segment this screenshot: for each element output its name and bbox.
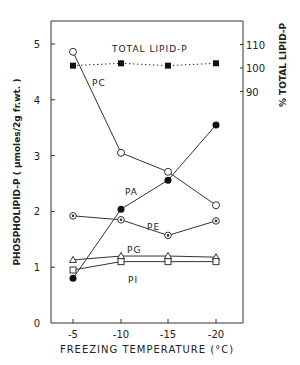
data-point-center: [120, 218, 123, 221]
series-label: PC: [92, 78, 106, 88]
data-point-center: [167, 234, 170, 237]
data-point: [70, 63, 76, 69]
series-label: TOTAL LIPID-P: [111, 44, 188, 54]
x-tick-label: -20: [208, 329, 224, 340]
data-point: [213, 259, 219, 265]
series-label: PA: [125, 187, 138, 197]
data-point-center: [215, 220, 218, 223]
series-line-pe: [73, 216, 216, 236]
series-label: PG: [127, 245, 141, 255]
y-tick-label: 1: [34, 262, 40, 273]
data-point-center: [72, 215, 75, 218]
series-line-pg: [73, 256, 216, 260]
y-tick-label: 3: [34, 151, 40, 162]
y-right-tick-label: 90: [246, 87, 259, 98]
series-line-pa: [73, 125, 216, 278]
data-point: [213, 202, 220, 209]
y-right-axis-label: % TOTAL LIPID-P: [278, 22, 288, 107]
y-tick-label: 0: [34, 318, 40, 329]
data-point: [213, 121, 220, 128]
data-point: [165, 177, 172, 184]
data-point: [165, 63, 171, 69]
data-point: [213, 60, 219, 66]
series-label: PI: [128, 275, 138, 285]
chart: 01234590100110-5-10-15-20FREEZING TEMPER…: [0, 0, 300, 365]
y-tick-label: 5: [34, 39, 40, 50]
data-point: [118, 259, 124, 265]
x-axis-label: FREEZING TEMPERATURE (°C): [60, 344, 234, 355]
series-line-totallipidp: [73, 63, 216, 65]
x-tick-label: -15: [160, 329, 176, 340]
y-tick-label: 4: [34, 95, 40, 106]
data-point: [118, 149, 125, 156]
x-tick-label: -10: [113, 329, 129, 340]
data-point: [118, 206, 125, 213]
data-point: [165, 259, 171, 265]
y-right-tick-label: 110: [246, 40, 265, 51]
data-point: [70, 48, 77, 55]
y-axis-label: PHOSPHOLIPID-P ( µmoles/2g fr.wt. ): [12, 78, 22, 265]
data-point: [165, 168, 172, 175]
series-line-pc: [73, 52, 216, 205]
series-label: PE: [147, 222, 160, 232]
data-point: [118, 60, 124, 66]
x-tick-label: -5: [68, 329, 78, 340]
y-right-tick-label: 100: [246, 63, 265, 74]
data-point: [70, 267, 76, 273]
data-point: [70, 275, 77, 282]
y-tick-label: 2: [34, 206, 40, 217]
series-line-pi: [73, 262, 216, 270]
